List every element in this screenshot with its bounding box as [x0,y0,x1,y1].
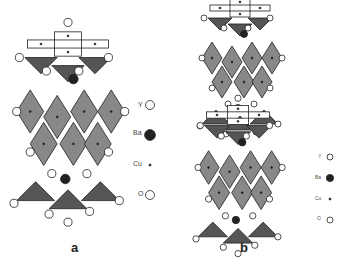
oxygen-atom [279,55,285,61]
oxygen-atom [266,122,272,128]
oxygen-atom [64,18,72,26]
cu-atom [241,192,243,194]
cu-atom [56,116,58,118]
barium-atom [239,139,246,146]
oxygen-atom [201,15,207,21]
oxygen-atom [193,236,199,242]
oxygen-atom [275,121,281,127]
oxygen-atom [267,85,273,91]
legend-a-ba: Ba [133,129,142,136]
legend-y-marker [327,154,333,160]
oxygen-atom [251,101,257,107]
cu-atom [40,43,42,45]
cu-atom [271,167,273,169]
cu-atom [251,57,253,59]
oxygen-atom [209,85,215,91]
barium-atom [241,31,248,38]
cu-atom [43,143,45,145]
legend-y-marker [146,101,155,110]
cu-atom [237,108,239,110]
legend-b-cu: Cu [315,195,321,201]
legend-a-o: O [138,190,143,197]
cu-atom [216,114,218,116]
oxygen-atom [42,67,50,75]
oxygen-atom [267,15,273,21]
cu-atom [211,57,213,59]
oxygen-atom [104,148,112,156]
oxygen-atom [15,53,23,61]
oxygen-atom [275,234,281,240]
oxygen-atom [221,25,227,31]
cu-atom [271,57,273,59]
cu-atom [258,114,260,116]
barium-atom [69,74,78,83]
cu-atom [29,111,31,113]
cu-atom [259,7,261,9]
legend-ba-marker [326,174,333,181]
panel-b-label: b [240,240,248,255]
cu-atom [239,13,241,15]
legend-o-marker [146,191,155,200]
oxygen-atom [64,218,72,226]
oxygen-atom [199,55,205,61]
legend-cu-marker [329,198,331,200]
oxygen-atom [10,199,18,207]
oxygen-atom [48,170,56,178]
pyramid [249,222,278,237]
pyramid [198,222,227,237]
cu-atom [260,192,262,194]
legend-b-ba: Ba [315,174,321,180]
oxygen-atom [83,170,91,178]
cu-atom [218,192,220,194]
crystal-structure-figure: a b Y Ba Cu O Y Ba Cu O [0,0,343,268]
pyramid [223,228,252,243]
legend-a-y: Y [138,101,143,108]
legend-ba-marker [145,130,156,141]
oxygen-atom [75,67,83,75]
legend-a-cu: Cu [133,160,142,167]
oxygen-atom [26,148,34,156]
cu-atom [239,1,241,3]
cu-atom [73,143,75,145]
legend-o-marker [327,217,333,223]
oxygen-atom [197,122,203,128]
oxygen-atom [222,213,228,219]
cu-atom [67,35,69,37]
panel-a-label: a [71,240,78,255]
oxygen-atom [235,95,241,101]
cu-atom [229,171,231,173]
pyramid [17,182,55,201]
cu-atom [243,81,245,83]
cu-atom [221,81,223,83]
pyramid [49,190,87,209]
oxygen-atom [279,164,285,170]
legend-b-o: O [317,215,321,221]
oxygen-atom [104,53,112,61]
oxygen-atom [205,196,211,202]
oxygen-atom [13,107,21,115]
cu-atom [83,111,85,113]
oxygen-atom [245,25,251,31]
structure-drawings [0,0,343,268]
cu-atom [219,7,221,9]
cu-atom [97,143,99,145]
pyramid [82,182,120,201]
cu-atom [94,43,96,45]
legend-cu-marker [149,164,151,166]
barium-atom [232,216,239,223]
oxygen-atom [115,197,123,205]
cu-atom [231,61,233,63]
cu-atom [261,81,263,83]
oxygen-atom [250,213,256,219]
legend-b-y: Y [318,153,321,159]
oxygen-atom [121,107,129,115]
oxygen-atom [86,207,94,215]
cu-atom [110,111,112,113]
cu-atom [237,120,239,122]
oxygen-atom [252,242,258,248]
oxygen-atom [45,210,53,218]
oxygen-atom [218,133,224,139]
oxygen-atom [195,164,201,170]
cu-atom [208,167,210,169]
cu-atom [67,51,69,53]
